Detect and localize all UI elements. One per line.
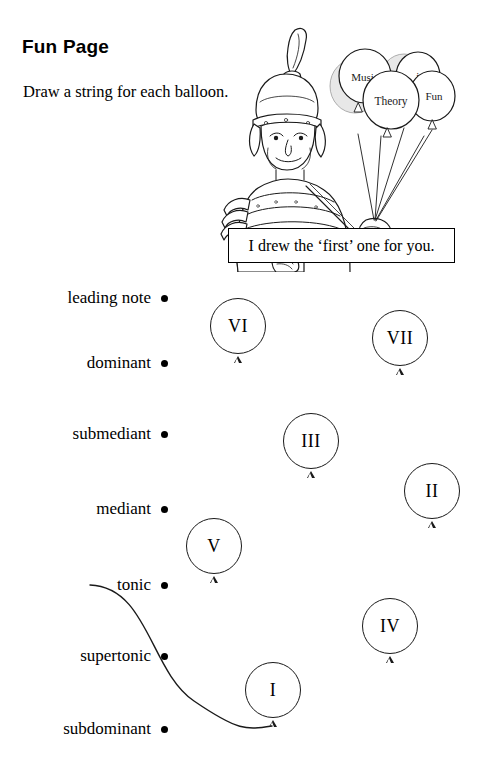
balloon-numeral: VII [372, 310, 428, 366]
degree-label: dominant [87, 353, 151, 373]
degree-row: submediant [0, 424, 168, 444]
balloon[interactable]: VI [210, 298, 266, 354]
degree-label: leading note [67, 288, 151, 308]
degree-row: subdominant [0, 719, 168, 739]
degree-label: supertonic [80, 646, 151, 666]
balloon[interactable]: II [404, 463, 460, 519]
degree-label: submediant [73, 424, 151, 444]
degree-connector-dot[interactable] [161, 582, 168, 589]
balloon-knot[interactable] [210, 576, 218, 583]
balloon-knot[interactable] [396, 368, 404, 375]
degree-connector-dot[interactable] [161, 360, 168, 367]
balloon-numeral: IV [362, 598, 418, 654]
degree-row: leading note [0, 288, 168, 308]
speech-box-text: I drew the ‘first’ one for you. [229, 237, 454, 255]
balloon-knot[interactable] [269, 720, 277, 727]
degree-connector-dot[interactable] [161, 506, 168, 513]
degree-connector-dot[interactable] [161, 653, 168, 660]
degree-connector-dot[interactable] [161, 295, 168, 302]
degree-label: subdominant [63, 719, 151, 739]
balloon[interactable]: I [245, 662, 301, 718]
balloon[interactable]: III [283, 413, 339, 469]
balloon-knot[interactable] [386, 656, 394, 663]
svg-text:Fun: Fun [425, 90, 443, 102]
balloon[interactable]: VII [372, 310, 428, 366]
degree-label: mediant [96, 499, 151, 519]
degree-connector-dot[interactable] [161, 431, 168, 438]
balloon-numeral: II [404, 463, 460, 519]
instruction-text: Draw a string for each balloon. [23, 82, 228, 102]
degree-row: mediant [0, 499, 168, 519]
balloon-knot[interactable] [307, 471, 315, 478]
speech-box: I drew the ‘first’ one for you. [228, 228, 455, 263]
svg-text:Theory: Theory [374, 95, 407, 108]
balloon-knot[interactable] [428, 521, 436, 528]
balloon-numeral: VI [210, 298, 266, 354]
degree-row: dominant [0, 353, 168, 373]
balloon-numeral: V [186, 518, 242, 574]
balloon-knot[interactable] [234, 356, 242, 363]
degree-connector-dot[interactable] [161, 726, 168, 733]
balloon[interactable]: V [186, 518, 242, 574]
balloon-numeral: I [245, 662, 301, 718]
degree-row: supertonic [0, 646, 168, 666]
page-title: Fun Page [22, 36, 109, 58]
degree-label: tonic [117, 575, 151, 595]
balloon-numeral: III [283, 413, 339, 469]
balloon[interactable]: IV [362, 598, 418, 654]
degree-row: tonic [0, 575, 168, 595]
